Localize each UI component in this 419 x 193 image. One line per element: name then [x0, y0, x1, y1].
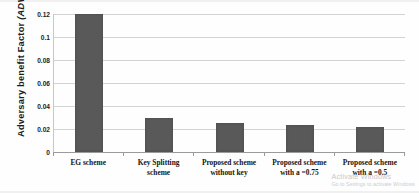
- x-axis-category-label-line: Proposed scheme: [195, 158, 263, 168]
- bar-slot: [265, 14, 335, 152]
- bar: [145, 118, 173, 152]
- bar-slot: [124, 14, 194, 152]
- y-axis-tick-label: 0.08: [24, 57, 50, 64]
- x-axis-tick: [193, 152, 194, 156]
- scan-edge-bottom: [0, 191, 419, 193]
- x-axis-category-label-line: scheme: [124, 168, 192, 178]
- bar-chart-figure: Adversary benefit Factor (ADV) 00.020.04…: [0, 0, 419, 193]
- bar: [356, 127, 384, 152]
- x-axis-tick: [264, 152, 265, 156]
- x-axis-tick: [404, 152, 405, 156]
- y-axis-tick-label: 0.04: [24, 103, 50, 110]
- y-axis-tick-label: 0.02: [24, 126, 50, 133]
- bar-series: [54, 14, 405, 152]
- bar: [216, 123, 244, 152]
- y-axis-tick-label: 0.1: [24, 34, 50, 41]
- plot-area: [53, 14, 405, 152]
- x-axis-category-label-line: with a =0.75: [265, 168, 333, 178]
- bar: [286, 125, 314, 152]
- bar-slot: [335, 14, 405, 152]
- x-axis-category-label-line: Proposed scheme: [265, 158, 333, 168]
- x-axis-category-label: EG scheme: [53, 158, 123, 188]
- bar-slot: [194, 14, 264, 152]
- y-axis-tick-labels: 00.020.040.060.080.10.12: [24, 14, 50, 152]
- x-axis-category-label-line: with a =0.5: [336, 168, 404, 178]
- x-axis-ticks: [53, 152, 405, 156]
- y-axis-tick-label: 0.12: [24, 11, 50, 18]
- x-axis-category-label: Key Splittingscheme: [123, 158, 193, 188]
- scan-edge-top: [0, 0, 419, 2]
- x-axis-tick: [53, 152, 54, 156]
- bar-slot: [54, 14, 124, 152]
- x-axis-category-label: Proposed schemewith a =0.5: [335, 158, 405, 188]
- bar: [75, 14, 103, 152]
- x-axis-category-label: Proposed schemewith a =0.75: [264, 158, 334, 188]
- x-axis-category-label-line: Proposed scheme: [336, 158, 404, 168]
- x-axis-category-label-line: Key Splitting: [124, 158, 192, 168]
- x-axis-tick: [123, 152, 124, 156]
- y-axis-tick-label: 0: [24, 149, 50, 156]
- x-axis-tick: [334, 152, 335, 156]
- x-axis-category-label-line: EG scheme: [54, 158, 122, 168]
- y-axis-tick-label: 0.06: [24, 80, 50, 87]
- x-axis-category-label-line: without key: [195, 168, 263, 178]
- x-axis-category-labels: EG schemeKey SplittingschemeProposed sch…: [53, 158, 405, 188]
- x-axis-category-label: Proposed schemewithout key: [194, 158, 264, 188]
